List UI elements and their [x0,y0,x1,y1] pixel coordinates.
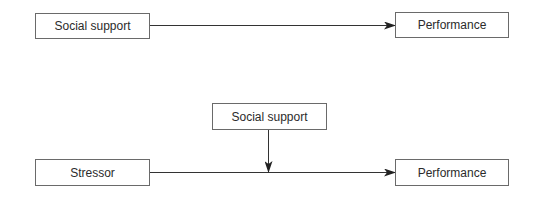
node-performance-top: Performance [395,12,509,38]
node-social-support-top: Social support [35,13,150,39]
moderation-diagram: Social support Performance Social suppor… [0,0,536,202]
node-label: Performance [418,166,487,180]
node-label: Social support [231,110,307,124]
node-social-support-moderator: Social support [212,103,327,130]
node-stressor: Stressor [35,159,150,186]
node-performance-bottom: Performance [395,159,509,186]
node-label: Stressor [70,166,115,180]
node-label: Social support [54,19,130,33]
node-label: Performance [418,18,487,32]
